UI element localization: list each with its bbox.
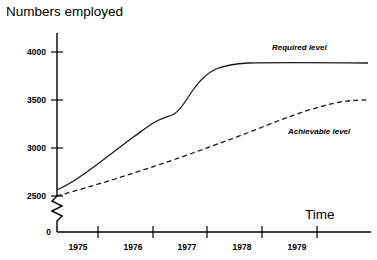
y-tick-label-3000: 3000 [27,143,46,153]
x-tick-label-1979: 1979 [288,242,307,252]
x-tick-label-1976: 1976 [124,242,143,252]
y-axis-break-zigzag [52,196,62,232]
x-tick-label-1975: 1975 [69,242,88,252]
label-achievable-level: Achievable level [287,127,351,136]
y-tick-label-0: 0 [46,227,51,237]
y-tick-label-3500: 3500 [27,95,46,105]
chart-canvas: Numbers employed 4000 3500 3000 2500 0 1… [0,0,377,260]
y-tick-label-4000: 4000 [27,47,46,57]
x-tick-label-1977: 1977 [178,242,197,252]
label-required-level: Required level [272,43,327,52]
x-tick-label-1978: 1978 [233,242,252,252]
chart-title: Numbers employed [6,4,123,19]
y-tick-label-2500: 2500 [27,191,46,201]
series-achievable-level [57,100,366,196]
employment-chart: Numbers employed 4000 3500 3000 2500 0 1… [0,0,377,260]
x-axis-title: Time [305,207,335,222]
